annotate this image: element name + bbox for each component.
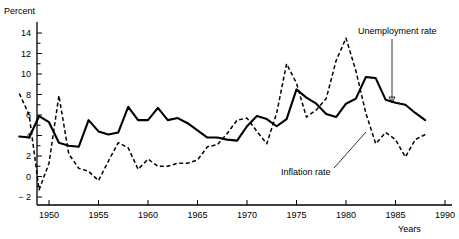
annotation-inflation-rate: Inflation rate	[281, 167, 331, 177]
x-tick-label: 1990	[435, 210, 455, 220]
y-tick-label: 12	[21, 49, 31, 59]
annotation-leader-inflation	[334, 132, 366, 168]
x-tick-label: 1965	[187, 210, 207, 220]
x-tick-label: 1950	[39, 210, 59, 220]
x-tick-label: 1975	[286, 210, 306, 220]
line-chart: Percent Years − 202468101214 19501955196…	[0, 0, 459, 239]
x-tick-label: 1985	[385, 210, 405, 220]
y-tick-label: 10	[21, 69, 31, 79]
x-tick-label: 1955	[88, 210, 108, 220]
series-unemployment-rate	[19, 77, 425, 147]
x-tick-label: 1960	[138, 210, 158, 220]
chart-figure: Percent Years − 202468101214 19501955196…	[0, 0, 459, 239]
series-inflation-rate	[19, 38, 425, 190]
y-tick-label: − 2	[18, 192, 31, 202]
y-tick-label: 8	[26, 90, 31, 100]
x-tick-label: 1970	[237, 210, 257, 220]
x-tick-group: 195019551960196519701975198019851990	[39, 200, 455, 220]
y-tick-label: 0	[26, 172, 31, 182]
y-tick-label: 2	[26, 151, 31, 161]
x-axis-label: Years	[398, 224, 421, 234]
annotation-unemployment-rate: Unemployment rate	[358, 26, 437, 36]
y-tick-label: 14	[21, 28, 31, 38]
x-tick-label: 1980	[336, 210, 356, 220]
y-axis-label: Percent	[4, 6, 36, 16]
